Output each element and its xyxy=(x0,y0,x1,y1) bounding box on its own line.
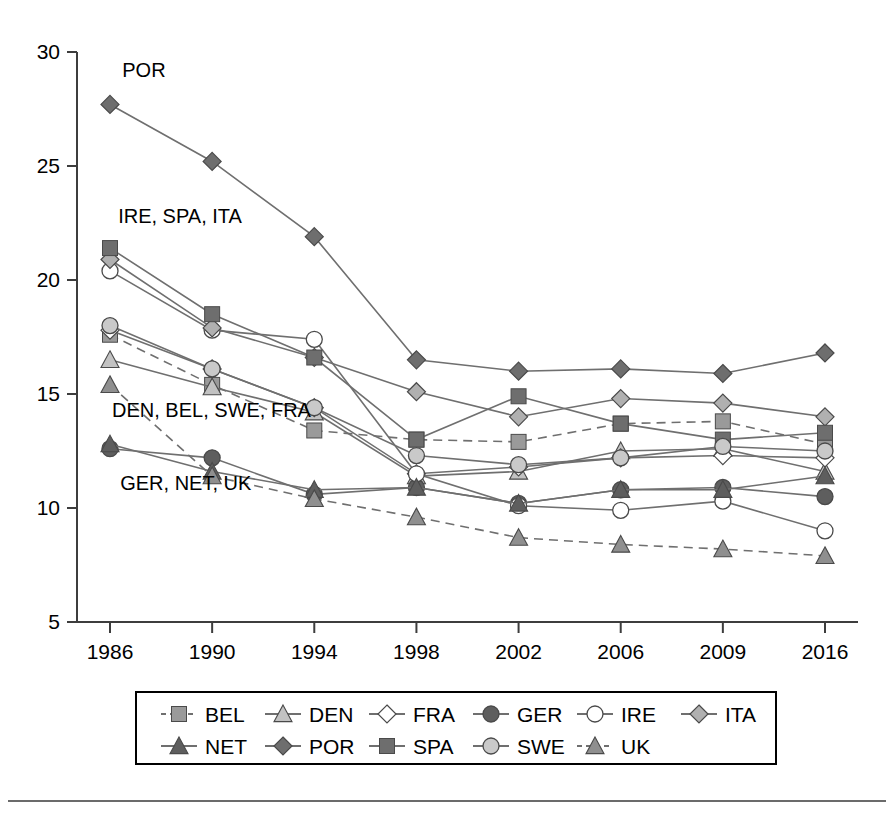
x-axis-tick-label: 2002 xyxy=(495,640,542,663)
marker-swe xyxy=(715,438,731,454)
marker-ger xyxy=(817,489,833,505)
marker-spa xyxy=(205,307,220,322)
marker-swe xyxy=(102,318,118,334)
marker-ire xyxy=(306,331,322,347)
marker-ita xyxy=(510,408,528,426)
series-por xyxy=(101,95,834,382)
marker-uk xyxy=(407,508,425,525)
x-axis-tick-label: 1998 xyxy=(393,640,440,663)
chart-annotations: PORIRE, SPA, ITADEN, BEL, SWE, FRAGER, N… xyxy=(112,59,312,494)
marker-por xyxy=(816,344,834,362)
legend-label-swe: SWE xyxy=(517,735,565,758)
marker-swe xyxy=(204,361,220,377)
marker-bel xyxy=(511,434,526,449)
marker-uk xyxy=(101,376,119,393)
legend-label-ire: IRE xyxy=(621,703,656,726)
marker-ita xyxy=(407,383,425,401)
legend-item-por[interactable]: POR xyxy=(265,735,355,758)
legend-item-ire[interactable]: IRE xyxy=(577,703,656,726)
marker-spa xyxy=(409,432,424,447)
legend-label-fra: FRA xyxy=(413,703,455,726)
marker-ita xyxy=(714,394,732,412)
marker-spa xyxy=(307,350,322,365)
legend-item-swe[interactable]: SWE xyxy=(473,735,565,758)
y-axis-tick-label: 5 xyxy=(48,610,60,633)
x-axis-tick-label: 2016 xyxy=(802,640,849,663)
legend-label-por: POR xyxy=(309,735,355,758)
chart-axes: 5101520253019861990199419982002200620092… xyxy=(37,40,858,663)
legend-item-bel[interactable]: BEL xyxy=(161,703,245,726)
legend-item-fra[interactable]: FRA xyxy=(369,703,455,726)
x-axis-tick-label: 1994 xyxy=(291,640,338,663)
legend-item-den[interactable]: DEN xyxy=(265,703,353,726)
line-chart-canvas: 5101520253019861990199419982002200620092… xyxy=(0,0,894,819)
marker-bel xyxy=(715,414,730,429)
marker-por xyxy=(407,351,425,369)
x-axis-tick-label: 2009 xyxy=(699,640,746,663)
legend-marker-swe xyxy=(483,738,499,754)
marker-por xyxy=(305,228,323,246)
marker-spa xyxy=(511,389,526,404)
legend-marker-ita xyxy=(690,705,708,723)
x-axis-tick-label: 2006 xyxy=(597,640,644,663)
legend-marker-spa xyxy=(380,739,395,754)
annotation-label: GER, NET, UK xyxy=(120,472,252,494)
y-axis-tick-label: 10 xyxy=(37,496,60,519)
marker-den xyxy=(101,351,119,368)
legend-item-uk[interactable]: UK xyxy=(577,735,650,758)
marker-por xyxy=(203,152,221,170)
marker-ita xyxy=(816,408,834,426)
legend-marker-por xyxy=(274,737,292,755)
x-axis-tick-label: 1986 xyxy=(87,640,134,663)
marker-swe xyxy=(511,457,527,473)
legend-label-ita: ITA xyxy=(725,703,756,726)
legend-label-spa: SPA xyxy=(413,735,453,758)
legend-item-net[interactable]: NET xyxy=(161,735,247,758)
y-axis-tick-label: 30 xyxy=(37,40,60,63)
legend-label-den: DEN xyxy=(309,703,353,726)
annotation-label: POR xyxy=(122,59,165,81)
annotation-label: IRE, SPA, ITA xyxy=(118,205,242,227)
legend-item-spa[interactable]: SPA xyxy=(369,735,453,758)
marker-por xyxy=(612,360,630,378)
marker-swe xyxy=(613,450,629,466)
annotation-label: DEN, BEL, SWE, FRA xyxy=(112,399,312,421)
legend-marker-ire xyxy=(587,706,603,722)
marker-ire xyxy=(817,523,833,539)
marker-ire xyxy=(613,502,629,518)
marker-spa xyxy=(818,425,833,440)
marker-ita xyxy=(612,390,630,408)
chart-figure: 5101520253019861990199419982002200620092… xyxy=(0,0,894,819)
legend-marker-fra xyxy=(378,705,396,723)
marker-spa xyxy=(103,241,118,256)
marker-spa xyxy=(613,416,628,431)
y-axis-tick-label: 25 xyxy=(37,154,60,177)
legend-item-ita[interactable]: ITA xyxy=(681,703,756,726)
marker-swe xyxy=(408,448,424,464)
y-axis-tick-label: 20 xyxy=(37,268,60,291)
legend-label-ger: GER xyxy=(517,703,563,726)
legend-label-bel: BEL xyxy=(205,703,245,726)
y-axis-tick-label: 15 xyxy=(37,382,60,405)
legend-item-ger[interactable]: GER xyxy=(473,703,563,726)
marker-por xyxy=(714,364,732,382)
marker-por xyxy=(101,95,119,113)
marker-por xyxy=(510,362,528,380)
x-axis-tick-label: 1990 xyxy=(189,640,236,663)
marker-bel xyxy=(307,423,322,438)
legend-label-net: NET xyxy=(205,735,247,758)
marker-swe xyxy=(817,443,833,459)
legend-label-uk: UK xyxy=(621,735,650,758)
chart-legend: BELDENFRAGERIREITANETPORSPASWEUK xyxy=(136,692,776,764)
legend-marker-bel xyxy=(172,707,187,722)
legend-marker-ger xyxy=(483,706,499,722)
